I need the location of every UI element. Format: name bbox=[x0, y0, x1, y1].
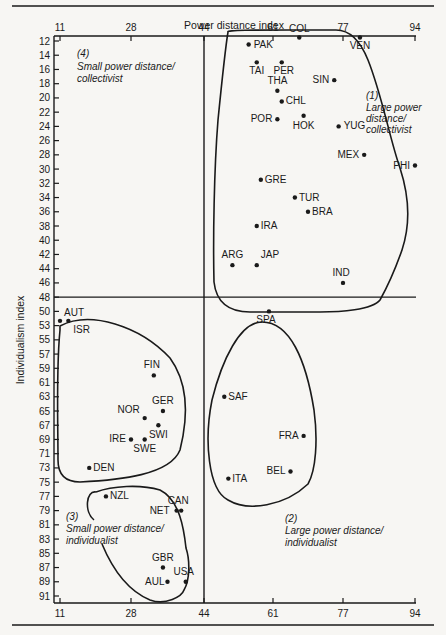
y-tick-label: 63 bbox=[39, 391, 51, 402]
point-marker bbox=[267, 309, 271, 313]
point-marker bbox=[87, 466, 91, 470]
point-marker bbox=[58, 319, 62, 323]
x-axis-bottom: 112844617794 bbox=[55, 598, 421, 619]
point-label: COL bbox=[289, 23, 310, 34]
y-tick-label: 89 bbox=[39, 576, 51, 587]
x-tick-label: 61 bbox=[267, 608, 279, 619]
y-tick-label: 57 bbox=[39, 349, 51, 360]
data-point-pak: PAK bbox=[246, 39, 273, 50]
y-axis-title: Individualism index bbox=[14, 295, 26, 384]
point-marker bbox=[275, 117, 279, 121]
point-label: CAN bbox=[168, 495, 189, 506]
y-tick-label: 71 bbox=[39, 448, 51, 459]
y-tick-label: 65 bbox=[39, 406, 51, 417]
data-point-tur: TUR bbox=[293, 192, 320, 203]
point-marker bbox=[152, 373, 156, 377]
data-point-ita: ITA bbox=[226, 473, 247, 484]
point-marker bbox=[179, 508, 183, 512]
y-tick-label: 79 bbox=[39, 505, 51, 516]
data-point-bra: BRA bbox=[306, 206, 333, 217]
x-tick-label: 44 bbox=[198, 22, 210, 33]
y-tick-label: 26 bbox=[39, 135, 51, 146]
x-tick-label: 44 bbox=[198, 608, 210, 619]
svg-text:(2): (2) bbox=[285, 513, 297, 524]
y-tick-label: 73 bbox=[39, 462, 51, 473]
point-marker bbox=[161, 565, 165, 569]
svg-text:collectivist: collectivist bbox=[366, 124, 413, 135]
point-label: IRA bbox=[261, 220, 278, 231]
data-point-ire: IRE bbox=[109, 433, 133, 444]
y-tick-label: 46 bbox=[39, 277, 51, 288]
quadrant-4-label: (4) Small power distance/ collectivist bbox=[77, 48, 176, 84]
data-point-sin: SIN bbox=[313, 74, 337, 85]
point-label: FRA bbox=[279, 430, 299, 441]
point-label: MEX bbox=[338, 149, 360, 160]
y-tick-label: 18 bbox=[39, 78, 51, 89]
data-point-phi: PHI bbox=[393, 160, 417, 171]
data-point-nzl: NZL bbox=[104, 490, 130, 501]
data-point-tha: THA bbox=[267, 75, 287, 93]
data-point-net: NET bbox=[150, 505, 179, 516]
y-tick-label: 20 bbox=[39, 92, 51, 103]
quadrant-3-label: (3) Small power distance/ individualist bbox=[66, 511, 165, 546]
point-marker bbox=[165, 580, 169, 584]
x-tick-label: 94 bbox=[409, 22, 421, 33]
svg-text:Large power: Large power bbox=[366, 102, 422, 113]
data-point-arg: ARG bbox=[222, 249, 244, 267]
y-tick-label: 75 bbox=[39, 477, 51, 488]
y-tick-label: 59 bbox=[39, 363, 51, 374]
svg-text:collectivist: collectivist bbox=[77, 73, 124, 84]
x-tick-label: 11 bbox=[55, 608, 66, 619]
quadrant-2-label: (2) Large power distance/ individualist bbox=[285, 513, 385, 548]
point-label: NET bbox=[150, 505, 170, 516]
y-tick-label: 24 bbox=[39, 121, 51, 132]
scatter-chart: Power distance index Individualism index… bbox=[0, 0, 446, 635]
cluster-2-outline bbox=[208, 322, 316, 506]
svg-text:(3): (3) bbox=[66, 511, 78, 522]
svg-text:distance/: distance/ bbox=[366, 113, 407, 124]
point-marker bbox=[161, 409, 165, 413]
point-label: SWE bbox=[133, 443, 156, 454]
point-label: GBR bbox=[152, 552, 174, 563]
point-label: PAK bbox=[254, 39, 274, 50]
point-label: BEL bbox=[267, 465, 286, 476]
svg-text:individualist: individualist bbox=[66, 535, 119, 546]
data-point-yug: YUG bbox=[336, 120, 365, 131]
point-label: CHL bbox=[286, 95, 306, 106]
y-tick-label: 42 bbox=[39, 249, 51, 260]
point-marker bbox=[142, 437, 146, 441]
svg-text:Large power distance/: Large power distance/ bbox=[285, 525, 385, 536]
point-marker bbox=[306, 210, 310, 214]
data-point-col: COL bbox=[289, 23, 310, 39]
x-tick-label: 61 bbox=[267, 22, 279, 33]
point-marker bbox=[341, 281, 345, 285]
y-tick-label: 69 bbox=[39, 434, 51, 445]
point-label: DEN bbox=[93, 462, 114, 473]
data-point-ven: VEN bbox=[350, 35, 371, 51]
point-label: SPA bbox=[256, 314, 276, 325]
point-label: VEN bbox=[350, 40, 371, 51]
y-tick-label: 55 bbox=[39, 334, 51, 345]
point-marker bbox=[332, 78, 336, 82]
y-tick-label: 12 bbox=[39, 36, 51, 47]
point-label: JAP bbox=[261, 249, 280, 260]
data-point-ira: IRA bbox=[255, 220, 278, 231]
point-marker bbox=[255, 263, 259, 267]
point-label: ARG bbox=[222, 249, 244, 260]
point-marker bbox=[66, 319, 70, 323]
y-tick-label: 28 bbox=[39, 149, 51, 160]
point-label: GRE bbox=[265, 174, 287, 185]
point-marker bbox=[259, 178, 263, 182]
y-tick-label: 50 bbox=[39, 306, 51, 317]
svg-text:Small power distance/: Small power distance/ bbox=[77, 61, 176, 72]
point-marker bbox=[301, 114, 305, 118]
point-label: POR bbox=[251, 113, 273, 124]
data-point-gbr: GBR bbox=[152, 552, 174, 570]
y-tick-label: 36 bbox=[39, 206, 51, 217]
data-point-tai: TAI bbox=[249, 60, 264, 76]
y-tick-label: 38 bbox=[39, 221, 51, 232]
point-label: BRA bbox=[312, 206, 333, 217]
point-marker bbox=[336, 124, 340, 128]
data-point-jap: JAP bbox=[255, 249, 280, 267]
data-point-fra: FRA bbox=[279, 430, 306, 441]
